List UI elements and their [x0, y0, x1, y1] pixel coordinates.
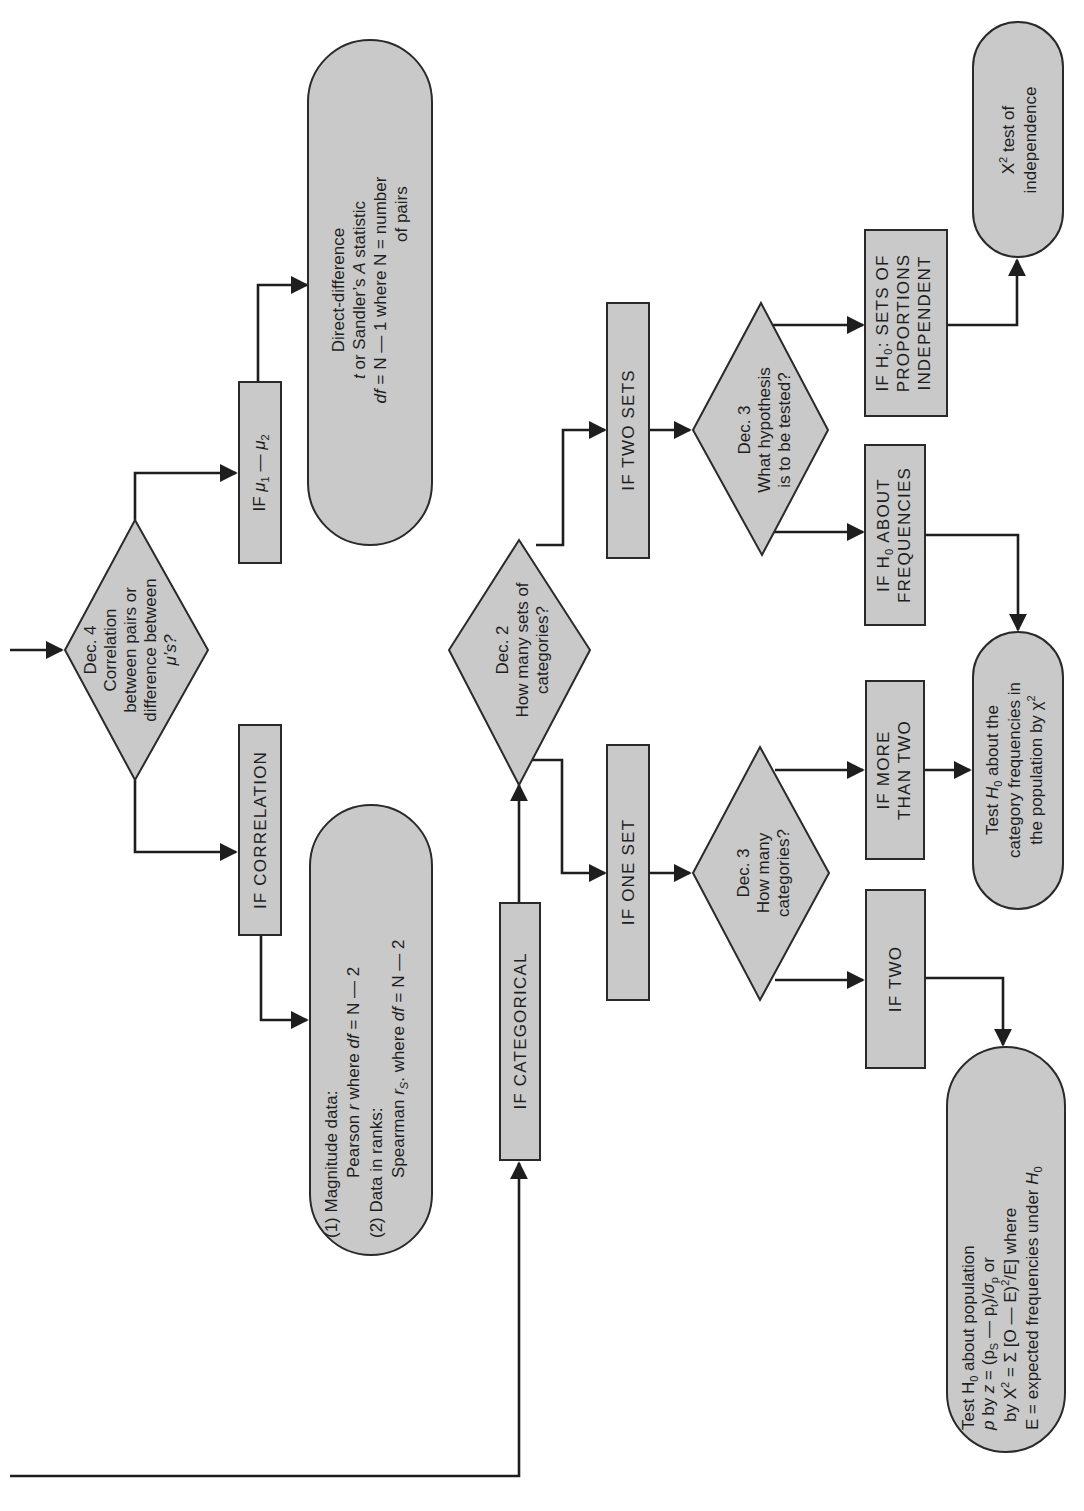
connectors [10, 260, 1018, 1476]
outcome-chi-square-independence: X2 test of independence [973, 22, 1063, 257]
condition-categorical: IF CATEGORICAL [500, 903, 540, 1160]
arrow-dec4-to-mu-diff [135, 473, 236, 520]
dec4-line-3: between pairs or [121, 587, 140, 713]
dec3-hypothesis-line-3: is to be tested? [775, 372, 794, 487]
dec3-categories-line-2: How many [754, 832, 773, 913]
arrow-entry-to-categorical [10, 1163, 519, 1476]
h0-independent-line-1: IF H0: SETS OF [873, 254, 894, 391]
dec2-line-2: How many sets of [513, 582, 532, 717]
arrow-dec2-to-two-sets [536, 430, 605, 545]
mu-diff-label: IF μ1 — μ2 [250, 434, 271, 511]
category-frequencies-line-1: Test H0 about the [983, 705, 1004, 835]
correlation-label: IF CORRELATION [251, 751, 270, 909]
more-than-two-line-1: IF MORE [874, 730, 893, 809]
one-set-label: IF ONE SET [619, 819, 638, 925]
chi-square-line-2: independence [1021, 87, 1040, 194]
direct-difference-line-1: Direct-difference [329, 228, 348, 352]
decision-dec3-categories: Dec. 3 How many categories? [693, 747, 829, 1000]
dec4-line-2: Correlation [101, 608, 120, 691]
dec3-hypothesis-line-2: What hypothesis [755, 367, 774, 493]
h0-independent-line-3: INDEPENDENT [915, 255, 934, 390]
direct-difference-line-4: of pairs [392, 186, 411, 242]
arrow-mu-diff-to-direct-difference [258, 285, 307, 382]
condition-h0-frequencies: IF H0 ABOUT FREQUENCIES [865, 445, 925, 625]
more-than-two-line-2: THAN TWO [895, 720, 914, 820]
decision-dec3-hypothesis: Dec. 3 What hypothesis is to be tested? [693, 303, 828, 555]
direct-difference-line-3: df = N — 1 where N = number [371, 176, 390, 403]
arrow-two-to-proportion-test [925, 978, 1003, 1045]
dec2-line-1: Dec. 2 [493, 625, 512, 674]
outcome-population-proportion: Test H0 about population p by z = (pS — … [947, 1047, 1065, 1452]
outcome-direct-difference: Direct-difference t or Sandler’s A stati… [308, 40, 432, 545]
arrow-dec2-to-one-set [531, 760, 605, 873]
condition-two: IF TWO [866, 890, 925, 1068]
flowchart-canvas: Dec. 4 Correlation between pairs or diff… [0, 0, 1084, 1511]
h0-frequencies-line-1: IF H0 ABOUT [874, 478, 895, 592]
condition-two-sets: IF TWO SETS [607, 303, 649, 558]
dec3-categories-line-3: categories? [774, 829, 793, 917]
condition-one-set: IF ONE SET [607, 745, 649, 1000]
population-proportion-line-3: by X2 = Σ [O — E)2/E] where [999, 1208, 1020, 1422]
two-label: IF TWO [886, 946, 905, 1012]
decision-dec4: Dec. 4 Correlation between pairs or diff… [65, 520, 208, 780]
two-sets-label: IF TWO SETS [619, 369, 638, 491]
condition-mu-diff: IF μ1 — μ2 [239, 382, 281, 563]
correlation-tests-line-2: Pearson r where df = N — 2 [344, 967, 363, 1178]
dec3-categories-line-1: Dec. 3 [734, 848, 753, 897]
categorical-label: IF CATEGORICAL [511, 952, 530, 1109]
direct-difference-line-2: t or Sandler’s A statistic [350, 201, 369, 379]
dec3-hypothesis-line-1: Dec. 3 [735, 405, 754, 454]
correlation-tests-line-1: (1) Magnitude data: [322, 1091, 341, 1238]
dec4-line-1: Dec. 4 [81, 625, 100, 674]
arrow-h0-independent-to-chi-square [947, 260, 1017, 325]
arrow-correlation-to-tests [261, 935, 307, 1020]
h0-frequencies-line-2: FREQUENCIES [895, 467, 914, 603]
arrow-h0-frequencies-to-category-test [925, 535, 1018, 630]
chi-square-line-1: X2 test of [997, 105, 1018, 174]
correlation-tests-line-4: Spearman rS. where df = N — 2 [389, 940, 410, 1178]
arrow-dec4-to-correlation [135, 780, 236, 852]
correlation-tests-line-3: (2) Data in ranks: [367, 1108, 386, 1238]
condition-correlation: IF CORRELATION [239, 725, 281, 935]
category-frequencies-line-3: the population by χ2 [1025, 695, 1046, 844]
dec4-line-5: μ’s? [161, 634, 180, 667]
outcome-correlation-tests: (1) Magnitude data: Pearson r where df =… [310, 805, 432, 1255]
dec4-line-4: difference between [141, 578, 160, 721]
condition-h0-independent: IF H0: SETS OF PROPORTIONS INDEPENDENT [865, 230, 947, 416]
outcome-category-frequencies: Test H0 about the category frequencies i… [973, 632, 1063, 909]
population-proportion-line-1: Test H0 about population [959, 1245, 980, 1430]
dec2-line-3: categories? [533, 606, 552, 694]
h0-independent-line-2: PROPORTIONS [894, 254, 913, 393]
population-proportion-line-4: E = expected frequencies under H0 [1023, 1166, 1044, 1430]
decision-dec2: Dec. 2 How many sets of categories? [449, 540, 590, 785]
condition-more-than-two: IF MORE THAN TWO [866, 681, 924, 859]
category-frequencies-line-2: category frequencies in [1005, 682, 1024, 858]
